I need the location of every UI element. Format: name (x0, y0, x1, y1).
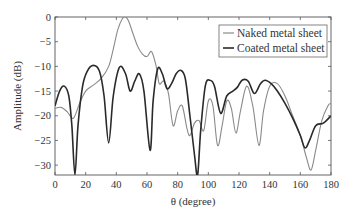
y-tick-label: 0 (46, 12, 51, 23)
x-tick-label: 100 (200, 179, 216, 190)
x-tick-label: 80 (172, 179, 183, 190)
x-tick-label: 180 (323, 179, 339, 190)
y-tick-label: −30 (35, 160, 51, 171)
y-tick-label: −5 (40, 36, 51, 47)
y-axis-label: Amplitude (dB) (11, 61, 24, 131)
legend: Naked metal sheet Coated metal sheet (219, 25, 327, 57)
x-tick-label: 140 (262, 179, 278, 190)
y-tick-label: −10 (35, 61, 51, 72)
y-tick-label: −15 (35, 86, 51, 97)
legend-label-coated: Coated metal sheet (237, 42, 325, 54)
line-chart: 020406080100120140160180 0−5−10−15−20−25… (0, 0, 354, 216)
x-axis-label: θ (degree) (171, 195, 216, 208)
x-tick-label: 60 (142, 179, 153, 190)
x-tick-label: 0 (52, 179, 57, 190)
x-tick-label: 120 (231, 179, 247, 190)
x-tick-label: 20 (80, 179, 91, 190)
y-tick-label: −20 (35, 110, 51, 121)
y-tick-label: −25 (35, 135, 51, 146)
x-tick-label: 160 (292, 179, 308, 190)
legend-label-naked: Naked metal sheet (237, 27, 323, 39)
x-tick-label: 40 (111, 179, 122, 190)
